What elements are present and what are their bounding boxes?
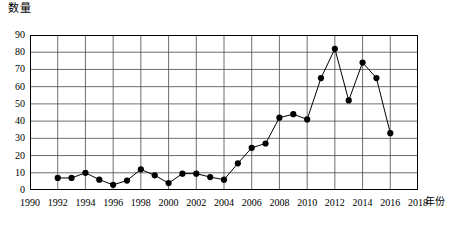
y-tick-label: 0: [3, 185, 25, 195]
x-tick-label: 2010: [290, 198, 324, 208]
x-tick-label: 1994: [68, 198, 102, 208]
x-tick-label: 2004: [207, 198, 241, 208]
y-tick-label: 40: [3, 116, 25, 126]
x-tick-label: 2008: [262, 198, 296, 208]
x-tick-label: 2000: [152, 198, 186, 208]
x-tick-label: 1998: [124, 198, 158, 208]
x-tick-label: 2016: [373, 198, 407, 208]
y-tick-label: 60: [3, 82, 25, 92]
y-tick-label: 20: [3, 151, 25, 161]
y-tick-label: 70: [3, 64, 25, 74]
y-axis-title: 数量: [8, 2, 31, 15]
x-tick-label: 2012: [318, 198, 352, 208]
plot-svg: [30, 35, 418, 190]
y-tick-label: 80: [3, 47, 25, 57]
y-tick-label: 50: [3, 99, 25, 109]
plot-area: [30, 35, 418, 190]
line-chart: 数量 0102030405060708090 19901992199419961…: [0, 0, 462, 230]
x-tick-label: 2014: [346, 198, 380, 208]
x-tick-label: 2002: [179, 198, 213, 208]
x-tick-label: 1992: [41, 198, 75, 208]
x-tick-label: 1990: [13, 198, 47, 208]
x-tick-label: 2006: [235, 198, 269, 208]
y-tick-label: 90: [3, 30, 25, 40]
vertical-gridlines: [58, 35, 391, 190]
y-tick-label: 10: [3, 168, 25, 178]
x-tick-label: 1996: [96, 198, 130, 208]
x-axis-title: 年份: [425, 196, 445, 208]
y-tick-label: 30: [3, 133, 25, 143]
